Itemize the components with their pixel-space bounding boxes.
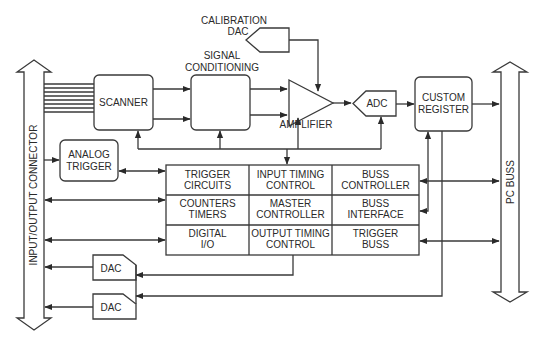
- svg-text:CUSTOM: CUSTOM: [422, 92, 465, 103]
- svg-text:BUSS: BUSS: [362, 169, 390, 180]
- svg-text:CONTROLLER: CONTROLLER: [256, 209, 324, 220]
- svg-text:INTERFACE: INTERFACE: [347, 209, 403, 220]
- svg-text:REGISTER: REGISTER: [418, 104, 469, 115]
- adc-block: ADC: [353, 91, 396, 116]
- pc-buss-label: PC BUSS: [505, 160, 516, 204]
- svg-text:TRIGGER: TRIGGER: [353, 228, 399, 239]
- svg-text:DIGITAL: DIGITAL: [188, 228, 227, 239]
- svg-text:MASTER: MASTER: [270, 198, 312, 209]
- svg-text:I/O: I/O: [201, 239, 215, 250]
- svg-text:TIMERS: TIMERS: [189, 209, 227, 220]
- svg-text:CONTROL: CONTROL: [266, 239, 315, 250]
- svg-text:CONTROL: CONTROL: [266, 180, 315, 191]
- block-diagram: INPUT/OUTPUT CONNECTOR PC BUSS SCANNER S…: [0, 0, 544, 342]
- svg-text:DAC: DAC: [227, 26, 248, 37]
- svg-text:INPUT TIMING: INPUT TIMING: [257, 169, 325, 180]
- io-connector-label: INPUT/OUTPUT CONNECTOR: [28, 125, 39, 266]
- svg-text:CONDITIONING: CONDITIONING: [185, 62, 259, 73]
- svg-text:TRIGGER: TRIGGER: [66, 161, 112, 172]
- scanner-block: SCANNER: [94, 75, 153, 130]
- cell-input-timing-control: INPUT TIMING CONTROL: [257, 169, 325, 191]
- svg-text:DAC: DAC: [100, 263, 121, 274]
- svg-text:CONTROLLER: CONTROLLER: [341, 180, 409, 191]
- svg-text:TRIGGER: TRIGGER: [185, 169, 231, 180]
- svg-text:BUSS: BUSS: [362, 239, 390, 250]
- svg-text:SIGNAL: SIGNAL: [204, 50, 241, 61]
- amplifier-block: AMPLIFIER: [280, 80, 333, 130]
- calibration-dac-block: CALIBRATION DAC: [201, 15, 289, 52]
- svg-text:BUSS: BUSS: [362, 198, 390, 209]
- control-grid: TRIGGER CIRCUITS INPUT TIMING CONTROL BU…: [166, 165, 419, 255]
- svg-text:COUNTERS: COUNTERS: [179, 198, 235, 209]
- svg-text:CIRCUITS: CIRCUITS: [184, 180, 232, 191]
- svg-text:AMPLIFIER: AMPLIFIER: [280, 119, 333, 130]
- svg-text:CALIBRATION: CALIBRATION: [201, 15, 267, 26]
- svg-text:ANALOG: ANALOG: [68, 149, 110, 160]
- cell-trigger-circuits: TRIGGER CIRCUITS: [184, 169, 232, 191]
- svg-text:OUTPUT TIMING: OUTPUT TIMING: [251, 228, 330, 239]
- svg-text:DAC: DAC: [100, 302, 121, 313]
- scanner-input-lines: [44, 84, 94, 112]
- custom-register-block: CUSTOM REGISTER: [415, 77, 472, 131]
- analog-trigger-block: ANALOG TRIGGER: [60, 140, 118, 181]
- dac-block-2: DAC: [93, 294, 136, 319]
- svg-text:SCANNER: SCANNER: [99, 97, 148, 108]
- signal-conditioning-block: SIGNAL CONDITIONING: [185, 50, 259, 130]
- pc-buss-arrow: PC BUSS: [493, 62, 527, 302]
- svg-text:ADC: ADC: [366, 98, 387, 109]
- dac-block-1: DAC: [93, 255, 136, 280]
